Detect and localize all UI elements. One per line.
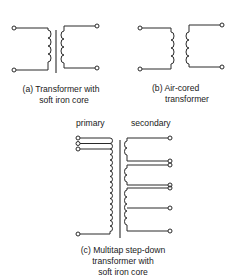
caption-c-line-3: soft iron core <box>68 267 178 277</box>
secondary-winding-2 <box>125 165 169 185</box>
caption-a-line-2: soft iron core <box>16 95 106 106</box>
caption-b: (b) Air-cored transformer <box>152 83 232 105</box>
terminal-b-secondary-bottom <box>220 65 224 69</box>
secondary-winding-3 <box>125 188 169 231</box>
terminal-c-secondary-2a <box>168 163 172 167</box>
panel-b-air-core-transformer <box>138 23 224 71</box>
terminal-c-secondary-1a <box>168 136 172 140</box>
secondary-coil-b <box>186 25 220 67</box>
secondary-winding-1 <box>125 138 169 161</box>
caption-c-line-2: transformer with <box>68 256 178 267</box>
terminal-a-secondary-bottom <box>95 66 99 70</box>
caption-a: (a) Transformer with soft iron core <box>16 84 106 106</box>
terminal-a-primary-bottom <box>12 68 16 72</box>
primary-coil-b <box>142 28 174 69</box>
terminal-c-primary-tap-1 <box>76 136 80 140</box>
caption-c-line-1: (c) Multitap step-down <box>68 245 178 256</box>
label-primary: primary <box>76 118 105 128</box>
terminal-c-primary-bottom <box>76 232 80 236</box>
caption-a-line-1: (a) Transformer with <box>16 84 106 95</box>
terminal-c-secondary-1b <box>168 159 172 163</box>
terminal-a-secondary-top <box>95 24 99 28</box>
primary-tap-lead-1 <box>80 138 113 144</box>
caption-b-line-2: transformer <box>152 94 232 105</box>
label-secondary: secondary <box>131 118 171 128</box>
panel-c-multitap-transformer <box>76 136 172 238</box>
terminal-b-secondary-top <box>220 23 224 27</box>
terminal-c-primary-tap-2 <box>76 142 80 146</box>
terminal-c-secondary-3b <box>168 229 172 233</box>
secondary-coil-a <box>61 26 95 68</box>
panel-a-iron-core-transformer <box>12 24 99 73</box>
terminal-b-primary-top <box>138 26 142 30</box>
terminal-b-primary-bottom <box>138 67 142 71</box>
primary-coil-a <box>16 28 51 70</box>
terminal-c-primary-tap-3 <box>76 147 80 151</box>
transformer-diagrams <box>0 0 236 277</box>
primary-tap-lead-2 <box>80 144 113 150</box>
terminal-a-primary-top <box>12 26 16 30</box>
primary-coil-c <box>80 149 113 234</box>
caption-c: (c) Multitap step-down transformer with … <box>68 245 178 277</box>
terminal-c-secondary-3-tap <box>168 206 172 210</box>
caption-b-line-1: (b) Air-cored <box>152 83 232 94</box>
